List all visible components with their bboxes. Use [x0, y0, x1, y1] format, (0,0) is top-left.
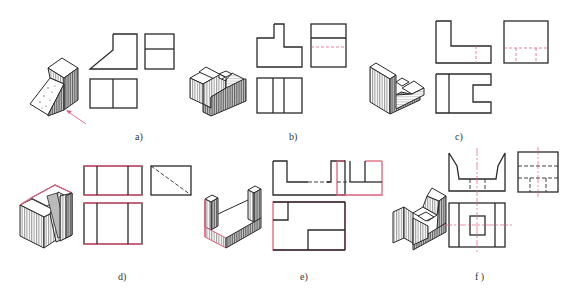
top-view-f	[444, 198, 514, 252]
panel-f	[393, 147, 558, 252]
side-view-a	[145, 34, 174, 69]
panel-b	[190, 24, 346, 116]
top-view-a	[90, 79, 137, 108]
front-view-b	[257, 24, 302, 67]
side-view-d	[151, 166, 191, 195]
isometric-view-a	[30, 58, 86, 124]
panel-a	[30, 34, 174, 124]
front-view-e	[273, 161, 345, 195]
front-view-c	[436, 21, 491, 63]
panel-label-c: c)	[455, 131, 463, 142]
top-view-c	[436, 74, 491, 113]
isometric-view-b	[190, 67, 246, 116]
side-view-f	[518, 147, 558, 197]
isometric-view-d	[20, 185, 72, 248]
isometric-view-f	[393, 188, 446, 250]
panel-e	[205, 161, 382, 250]
panel-c	[370, 21, 548, 114]
panel-label-a: a)	[135, 131, 143, 142]
figure-canvas	[0, 0, 575, 297]
panel-label-f: f )	[475, 271, 484, 282]
side-view-c	[504, 21, 548, 63]
panel-label-e: e)	[300, 271, 308, 282]
top-view-e	[273, 202, 345, 250]
side-view-e	[337, 161, 382, 195]
isometric-view-e	[205, 186, 261, 248]
front-view-d	[84, 166, 142, 195]
top-view-d	[84, 203, 142, 244]
panel-label-b: b)	[289, 131, 297, 142]
panel-label-d: d)	[118, 271, 126, 282]
top-view-b	[257, 78, 302, 113]
panel-d	[20, 166, 191, 248]
front-view-a	[90, 34, 137, 69]
front-view-f	[449, 148, 505, 196]
side-view-b	[311, 24, 346, 67]
isometric-view-c	[370, 63, 424, 114]
